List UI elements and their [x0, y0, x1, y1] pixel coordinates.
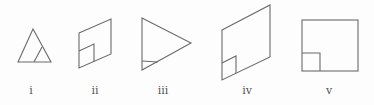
figure-label-ii: ii	[91, 84, 98, 97]
figure-label-v: v	[326, 84, 332, 97]
figure-label-iii: iii	[158, 84, 169, 97]
figure-sequence: i ii iii iv v	[0, 0, 374, 105]
figure-iv-parallelogram	[222, 5, 270, 80]
figure-v-square	[302, 20, 358, 71]
figure-ii-parallelogram	[79, 19, 111, 68]
figures-drawing	[0, 0, 374, 105]
figure-iii-triangle	[142, 18, 191, 70]
figure-label-iv: iv	[242, 84, 252, 97]
figure-i-triangle	[18, 29, 51, 62]
figure-label-i: i	[29, 84, 33, 97]
